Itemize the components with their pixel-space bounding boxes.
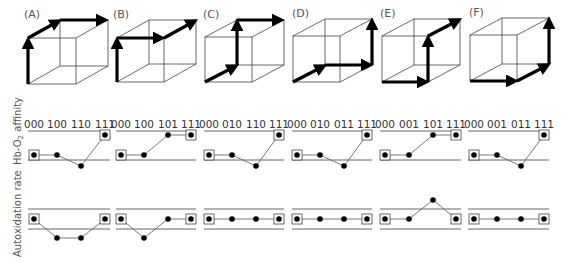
data-point (341, 216, 347, 222)
data-point (102, 216, 108, 222)
cube-b: (B) (113, 8, 196, 82)
y-label-affinity: Hb-O2 affinity (12, 97, 25, 165)
data-point (253, 163, 259, 169)
data-point (430, 197, 436, 203)
data-point (364, 216, 370, 222)
data-point (206, 216, 212, 222)
affinity-plot-0 (28, 130, 110, 169)
svg-text:000: 000 (199, 118, 219, 130)
data-point (453, 132, 459, 138)
panel-label-a: (A) (24, 8, 40, 21)
panel-label-c: (C) (203, 8, 219, 21)
data-point (406, 216, 412, 222)
data-point (206, 152, 212, 158)
data-point (54, 235, 60, 241)
svg-text:101: 101 (423, 118, 443, 130)
data-point (406, 152, 412, 158)
svg-text:101: 101 (158, 118, 178, 130)
svg-text:100: 100 (47, 118, 67, 130)
data-point (276, 216, 282, 222)
data-point (118, 152, 124, 158)
svg-text:001: 001 (399, 118, 419, 130)
data-point (317, 152, 323, 158)
data-point (382, 152, 388, 158)
cube-f: (F) (469, 6, 549, 81)
cube-c: (C) (203, 8, 284, 82)
cube-d: (D) (292, 7, 372, 82)
data-point (430, 132, 436, 138)
data-point (294, 216, 300, 222)
data-point (141, 152, 147, 158)
autoxidation-plot-3 (292, 209, 372, 229)
cube-e: (E) (380, 7, 460, 82)
svg-text:000: 000 (464, 118, 484, 130)
svg-text:001: 001 (487, 118, 507, 130)
data-point (471, 216, 477, 222)
svg-text:111: 111 (534, 118, 554, 130)
data-point (118, 216, 124, 222)
svg-text:110: 110 (71, 118, 91, 130)
affinity-plot-4 (380, 130, 461, 160)
data-point (165, 132, 171, 138)
svg-text:000: 000 (24, 118, 44, 130)
data-point (541, 132, 547, 138)
data-point (141, 235, 147, 241)
data-point (31, 216, 37, 222)
panel-label-b: (B) (113, 8, 129, 21)
data-point (229, 152, 235, 158)
data-point (78, 163, 84, 169)
data-point (317, 216, 323, 222)
data-point (188, 216, 194, 222)
affinity-plot-1 (116, 130, 196, 160)
data-point (253, 216, 259, 222)
y-label-autoxidation: Autoxidation rate (12, 170, 23, 257)
svg-text:110: 110 (246, 118, 266, 130)
svg-text:000: 000 (287, 118, 307, 130)
data-point (276, 132, 282, 138)
data-point (382, 216, 388, 222)
data-point (229, 216, 235, 222)
autoxidation-plot-0 (28, 209, 110, 241)
plots (28, 130, 549, 241)
svg-text:100: 100 (134, 118, 154, 130)
autoxidation-plot-5 (468, 209, 549, 229)
data-point (188, 132, 194, 138)
autoxidation-plot-2 (204, 209, 284, 229)
data-point (31, 152, 37, 158)
data-point (494, 216, 500, 222)
svg-text:010: 010 (222, 118, 242, 130)
data-point (518, 163, 524, 169)
svg-text:011: 011 (334, 118, 354, 130)
data-point (341, 163, 347, 169)
data-point (294, 152, 300, 158)
autoxidation-plot-1 (116, 209, 196, 241)
svg-text:011: 011 (511, 118, 531, 130)
svg-text:010: 010 (310, 118, 330, 130)
panel-label-f: (F) (469, 6, 484, 19)
svg-text:000: 000 (375, 118, 395, 130)
svg-text:000: 000 (111, 118, 131, 130)
cube-a: (A) (24, 8, 108, 84)
data-point (518, 216, 524, 222)
affinity-plot-3 (292, 130, 372, 169)
data-point (54, 152, 60, 158)
data-point (364, 132, 370, 138)
data-point (102, 132, 108, 138)
data-point (494, 152, 500, 158)
autoxidation-plot-4 (380, 197, 461, 229)
tick-labels: 000 100 110 111 000 100 101 111 000 010 … (24, 118, 554, 130)
figure: (A) (B) (C) (0, 0, 568, 262)
affinity-plot-5 (468, 130, 549, 169)
panel-label-e: (E) (380, 7, 396, 20)
data-point (78, 235, 84, 241)
data-point (541, 216, 547, 222)
data-point (453, 216, 459, 222)
data-point (165, 216, 171, 222)
data-point (471, 152, 477, 158)
panel-label-d: (D) (292, 7, 309, 20)
affinity-plot-2 (204, 130, 284, 169)
